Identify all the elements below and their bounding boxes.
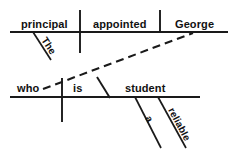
label-appointed: appointed bbox=[93, 18, 146, 30]
label-is: is bbox=[73, 82, 82, 94]
relative-pronoun-connector bbox=[43, 33, 193, 89]
label-george: George bbox=[175, 18, 214, 30]
label-who: who bbox=[16, 82, 39, 94]
label-principal: principal bbox=[21, 18, 68, 30]
diagram-canvas: principal appointed George The who is st… bbox=[0, 0, 237, 152]
label-student: student bbox=[125, 82, 166, 94]
predicate-nominative-divider bbox=[97, 77, 110, 98]
sentence-diagram: principal appointed George The who is st… bbox=[0, 0, 237, 152]
